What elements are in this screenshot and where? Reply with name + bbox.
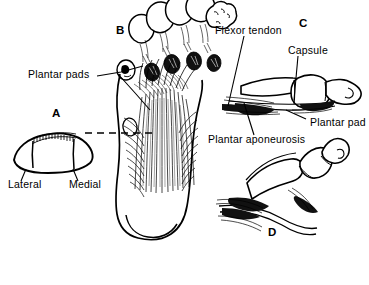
plantar-pad-mass-d [222,196,318,219]
panel-a-cross-section [14,133,93,181]
panel-letter-a: A [52,108,60,120]
plantar-pad-leader [286,110,306,119]
panel-letter-b: B [116,25,124,37]
label-plantar-pad: Plantar pad [310,117,366,128]
figure-artwork [0,0,369,285]
foot-sole-outline [116,74,202,240]
label-plantar-pads: Plantar pads [28,69,89,80]
distal-phalanx-c [326,79,361,104]
panel-letter-d: D [268,227,276,239]
toe-pad-outlines [129,0,215,43]
label-capsule: Capsule [288,45,328,56]
panel-letter-c: C [299,18,307,30]
label-plantar-aponeurosis: Plantar aponeurosis [208,134,305,145]
label-flexor-tendon: Flexor tendon [215,25,282,36]
pad-cross-section-outline [14,133,93,173]
flexor-tendon-leader [228,36,244,106]
anatomical-figure: Plantar pads Lateral Medial Flexor tendo… [0,0,369,285]
panel-d-sagittal-flexed [216,139,349,235]
label-medial: Medial [69,179,101,190]
label-lateral: Lateral [8,179,42,190]
proximal-phalanx-d [247,159,303,199]
distal-phalanx-d [322,139,349,164]
